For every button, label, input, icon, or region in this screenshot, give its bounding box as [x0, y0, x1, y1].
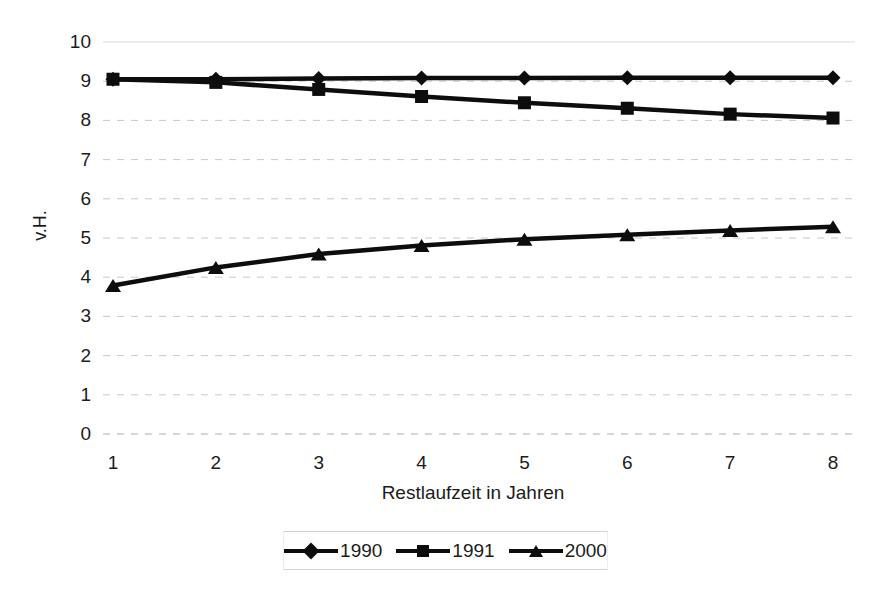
- y-axis-tick-label: 10: [51, 32, 91, 51]
- x-axis-tick-label: 7: [710, 453, 750, 472]
- y-axis-tick-label: 1: [51, 385, 91, 404]
- data-point-marker: [414, 71, 429, 86]
- legend-item-2000: 2000: [509, 540, 607, 562]
- y-axis-tick-label: 4: [51, 267, 91, 286]
- y-axis-tick-label: 0: [51, 424, 91, 443]
- y-axis-tick-label: 8: [51, 110, 91, 129]
- y-axis-tick-label: 7: [51, 150, 91, 169]
- data-point-marker: [620, 70, 635, 85]
- y-axis-tick-label: 9: [51, 71, 91, 90]
- data-point-marker: [826, 70, 841, 85]
- data-point-marker: [209, 76, 222, 89]
- x-axis-tick-label: 8: [813, 453, 853, 472]
- data-point-marker: [312, 83, 325, 96]
- x-axis-tick-label: 5: [504, 453, 544, 472]
- triangle-icon: [509, 543, 563, 559]
- data-point-marker: [827, 112, 840, 125]
- plot-area: [0, 0, 886, 609]
- y-axis-tick-label: 5: [51, 228, 91, 247]
- legend-label: 2000: [565, 540, 607, 562]
- data-point-marker: [517, 71, 532, 86]
- x-axis-tick-label: 6: [607, 453, 647, 472]
- line-chart: 109876543210 12345678 v.H. Restlaufzeit …: [0, 0, 886, 609]
- legend-label: 1991: [452, 540, 494, 562]
- x-axis-tick-label: 2: [196, 453, 236, 472]
- data-point-marker: [415, 90, 428, 103]
- data-point-marker: [723, 70, 738, 85]
- x-axis-tick-label: 1: [93, 453, 133, 472]
- x-axis-tick-label: 4: [402, 453, 442, 472]
- data-point-marker: [107, 73, 120, 86]
- data-point-marker: [621, 102, 634, 115]
- y-axis-tick-label: 6: [51, 189, 91, 208]
- diamond-icon: [284, 543, 338, 559]
- x-axis-title: Restlaufzeit in Jahren: [113, 482, 833, 504]
- legend-item-1991: 1991: [396, 540, 494, 562]
- y-axis-tick-label: 2: [51, 346, 91, 365]
- data-point-marker: [724, 108, 737, 121]
- y-axis-title: v.H.: [30, 176, 51, 276]
- data-point-marker: [518, 96, 531, 109]
- chart-legend: 199019912000: [283, 531, 608, 570]
- x-axis-tick-label: 3: [299, 453, 339, 472]
- square-icon: [396, 543, 450, 559]
- y-axis-tick-label: 3: [51, 306, 91, 325]
- legend-item-1990: 1990: [284, 540, 382, 562]
- legend-label: 1990: [340, 540, 382, 562]
